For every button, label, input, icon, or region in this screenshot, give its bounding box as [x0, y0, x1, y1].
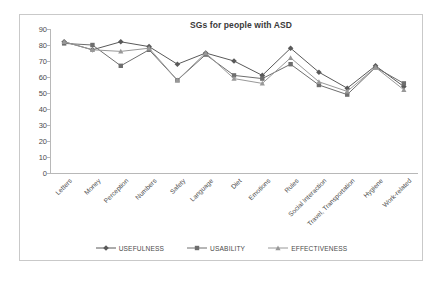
y-axis-tickmark	[47, 141, 50, 142]
x-axis-label-language: Language	[189, 177, 215, 203]
x-axis-label-hygiene: Hygiene	[362, 177, 384, 199]
x-axis-label-safety: Safety	[168, 177, 186, 195]
data-point-marker	[195, 246, 199, 250]
y-axis-tickmark	[47, 93, 50, 94]
data-point-marker	[118, 39, 124, 45]
x-axis-label-emotions: Emotions	[247, 177, 271, 201]
x-axis-label-rules: Rules	[283, 177, 300, 194]
x-axis-labels: LettersMoneyPerceptionNumbersSafetyLangu…	[50, 175, 418, 235]
legend-label: USABILITY	[210, 245, 245, 252]
data-point-marker	[288, 62, 292, 66]
legend-item-effectiveness[interactable]: EFFECTIVENESS	[267, 244, 347, 252]
y-axis-tickmark	[47, 157, 50, 158]
data-point-marker	[90, 43, 94, 47]
series-line	[64, 42, 404, 88]
legend-item-usability[interactable]: USABILITY	[186, 244, 245, 252]
x-axis-label-numbers: Numbers	[134, 177, 158, 201]
y-axis-tick-80: 80	[39, 41, 47, 50]
y-axis-tickmark	[47, 109, 50, 110]
y-axis-tick-70: 70	[39, 57, 47, 66]
data-point-marker	[103, 245, 109, 251]
y-axis-tick-30: 30	[39, 121, 47, 130]
y-axis-tick-10: 10	[39, 153, 47, 162]
series-effectiveness	[62, 39, 407, 93]
y-axis-tickmark	[47, 61, 50, 62]
legend-item-usefulness[interactable]: USEFULNESS	[95, 244, 164, 252]
plot-area	[50, 29, 418, 177]
chart-legend: USEFULNESSUSABILITYEFFECTIVENESS	[20, 244, 422, 252]
legend-marker-icon	[186, 244, 208, 252]
legend-label: EFFECTIVENESS	[291, 245, 347, 252]
y-axis-tick-20: 20	[39, 137, 47, 146]
y-axis-tickmark	[47, 173, 50, 174]
x-axis-label-money: Money	[82, 177, 101, 196]
y-axis-labels: 9080706050403020100	[20, 15, 50, 260]
x-axis-label-work-related: Work-related	[381, 177, 413, 209]
x-axis-label-perception: Perception	[102, 177, 129, 204]
y-axis-tickmark	[47, 45, 50, 46]
data-point-marker	[288, 55, 293, 60]
data-point-marker	[175, 61, 181, 67]
legend-marker-icon	[267, 244, 289, 252]
legend-label: USEFULNESS	[119, 245, 164, 252]
y-axis-tick-60: 60	[39, 73, 47, 82]
y-axis-tick-50: 50	[39, 89, 47, 98]
series-usability	[62, 41, 406, 97]
series-usefulness	[61, 39, 406, 91]
chart-container: SGs for people with ASD 9080706050403020…	[19, 14, 423, 261]
y-axis-tickmark	[47, 77, 50, 78]
data-point-marker	[119, 64, 123, 68]
data-point-marker	[260, 76, 264, 80]
x-axis-label-letters: Letters	[54, 177, 73, 196]
x-axis-label-diet: Diet	[230, 177, 243, 190]
y-axis-tickmark	[47, 125, 50, 126]
y-axis-tick-40: 40	[39, 105, 47, 114]
y-axis-tick-90: 90	[39, 25, 47, 34]
legend-marker-icon	[95, 244, 117, 252]
data-point-marker	[402, 81, 406, 85]
data-point-marker	[231, 58, 237, 64]
y-axis-tickmark	[47, 29, 50, 30]
